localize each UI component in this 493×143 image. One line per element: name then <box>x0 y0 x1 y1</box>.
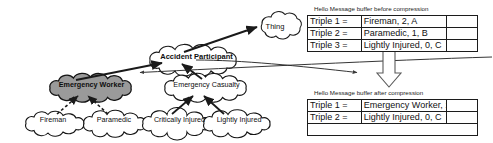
table-row: Triple 1 = Emergency Worker, 1, B <box>308 100 478 112</box>
table-row: Triple 1 = Fireman, 2, A <box>308 16 478 28</box>
table-row: Triple 3 = Lightly Injured, 0, C <box>308 40 478 52</box>
cell-value: Lightly Injured, 0, C <box>361 40 447 52</box>
cloud-fireman <box>26 111 84 136</box>
buffer-before-table: Triple 1 = Fireman, 2, A Triple 2 = Para… <box>307 15 478 52</box>
table-row: Triple 2 = Paramedic, 1, B <box>308 28 478 40</box>
cell-pad <box>447 100 478 112</box>
cell-key: Triple 2 = <box>308 28 362 40</box>
figure-canvas: Thing Accident Participant Emergency Wor… <box>0 0 493 143</box>
cell-pad <box>447 112 478 124</box>
cell-value: Emergency Worker, 1, B <box>361 100 447 112</box>
cell-pad <box>447 16 478 28</box>
buffer-after-caption: Hello Message buffer after compression <box>314 89 423 96</box>
cell-key: Triple 1 = <box>308 16 362 28</box>
cell-value: Paramedic, 1, B <box>361 28 447 40</box>
cell-pad <box>447 40 478 52</box>
cloud-paramedic <box>84 110 146 137</box>
cell-key: Triple 2 = <box>308 112 362 124</box>
buffer-after-table: Triple 1 = Emergency Worker, 1, B Triple… <box>307 99 478 136</box>
cloud-thing <box>261 12 301 39</box>
buffer-before-caption: Hello Message buffer before compression <box>314 5 428 12</box>
compression-arrow <box>377 50 401 87</box>
cell-value: Fireman, 2, A <box>361 16 447 28</box>
cell-empty <box>308 124 478 136</box>
cell-key: Triple 1 = <box>308 100 362 112</box>
cell-key: Triple 3 = <box>308 40 362 52</box>
table-row: Triple 2 = Lightly Injured, 0, C <box>308 112 478 124</box>
cloud-lightly-injured <box>204 110 270 138</box>
cloud-critically-injured <box>143 107 211 140</box>
cell-pad <box>447 28 478 40</box>
cell-value: Lightly Injured, 0, C <box>361 112 447 124</box>
table-row <box>308 124 478 136</box>
